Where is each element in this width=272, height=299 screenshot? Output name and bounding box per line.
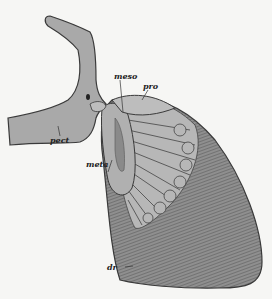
label-meso: meso	[114, 72, 137, 80]
pectoral-girdle	[8, 16, 106, 145]
label-pect: pect	[50, 136, 69, 144]
label-dr: dr	[107, 263, 117, 271]
label-meta: meta	[86, 160, 108, 168]
label-pro: pro	[143, 82, 158, 90]
pectoral-fin-illustration	[0, 0, 272, 299]
